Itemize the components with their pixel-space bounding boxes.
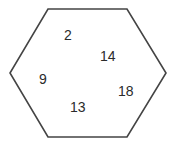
hexagon-number-label: 13 [70,100,86,114]
hexagon-figure: 2 14 9 18 13 [0,0,176,146]
hexagon-number-label: 14 [100,49,116,63]
hexagon-number-label: 9 [39,72,47,86]
hexagon-outline [10,9,166,137]
hexagon-number-label: 18 [118,84,134,98]
hexagon-number-label: 2 [64,28,72,42]
hexagon-shape [0,0,176,146]
